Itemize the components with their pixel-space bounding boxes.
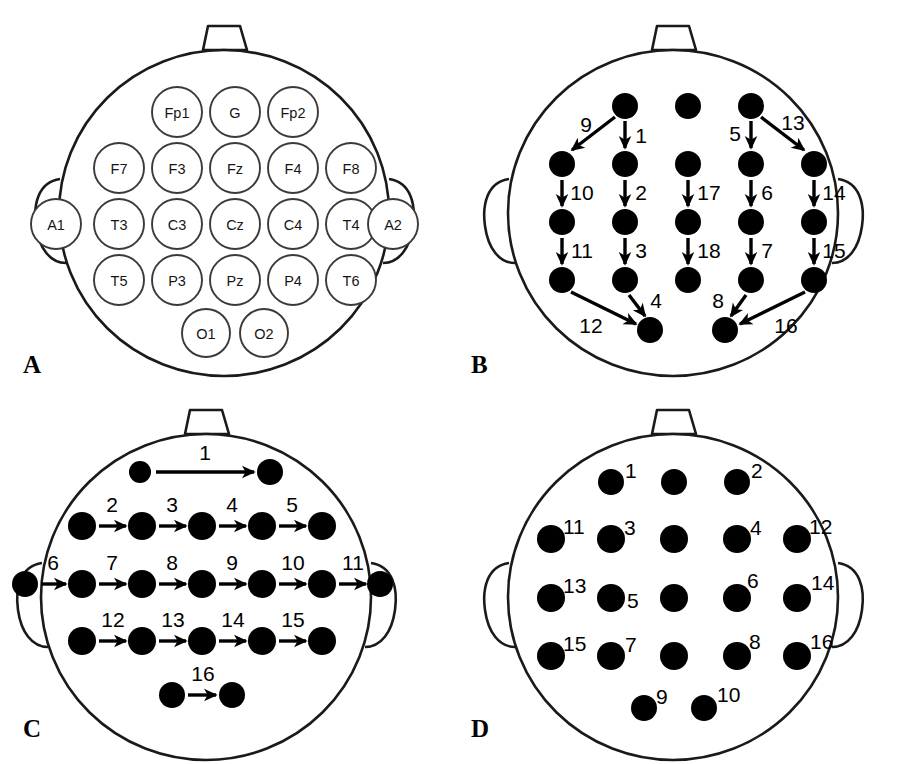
electrode-dot <box>128 627 156 655</box>
arrow-number: 11 <box>571 239 593 262</box>
arrow-number: 9 <box>226 551 238 574</box>
panel-d-drawing: 1 2 11 3 4 12 13 5 6 14 1 <box>449 382 898 764</box>
electrode-dot <box>637 317 663 343</box>
electrode-dot <box>549 209 575 235</box>
electrode-dot <box>68 570 96 598</box>
panel-letter-a: A <box>23 352 41 377</box>
nose-shape <box>203 26 247 50</box>
electrode-f4: F4 <box>268 143 318 193</box>
electrode-dot <box>801 209 827 235</box>
panel-b-longitudinal-bipolar: 9 1 5 13 10 2 17 6 14 <box>449 0 898 382</box>
arrow-number: 10 <box>570 181 593 204</box>
panel-c-transverse-bipolar: 1 2 3 4 5 6 7 8 9 10 11 12 <box>0 382 449 764</box>
arrow-number: 8 <box>166 551 178 574</box>
arrow-number: 13 <box>161 608 184 631</box>
arrow-number: 3 <box>635 239 647 262</box>
electrode-f3: F3 <box>152 143 202 193</box>
electrode-dot <box>660 642 688 670</box>
electrode-dot <box>712 317 738 343</box>
electrode-dot <box>631 695 657 721</box>
electrode-c3: C3 <box>152 199 202 249</box>
dot-number: 15 <box>563 632 586 655</box>
electrode-dot <box>675 93 701 119</box>
electrode-dot <box>219 682 245 708</box>
electrode-o2: O2 <box>240 309 288 357</box>
electrode-dot <box>783 584 811 612</box>
arrow-number: 6 <box>47 551 59 574</box>
arrow-number: 12 <box>579 314 602 337</box>
electrode-dot <box>248 627 276 655</box>
panel-letter-c: C <box>23 716 41 741</box>
electrode-label: F4 <box>285 161 302 177</box>
nose-shape <box>652 26 696 50</box>
electrode-dot <box>612 267 638 293</box>
panel-letter-d: D <box>471 716 489 741</box>
arrow-number: 15 <box>281 608 304 631</box>
electrode-dot <box>129 461 151 483</box>
panel-c-drawing: 1 2 3 4 5 6 7 8 9 10 11 12 <box>0 382 449 764</box>
electrode-dot <box>738 151 764 177</box>
electrode-dot <box>549 267 575 293</box>
arrow-number: 17 <box>697 181 720 204</box>
arrow-number: 4 <box>226 493 238 516</box>
electrode-label: A1 <box>47 217 65 233</box>
dot-number: 13 <box>563 574 586 597</box>
electrode-dot <box>675 151 701 177</box>
electrode-f7: F7 <box>94 143 144 193</box>
electrode-dot <box>537 525 565 553</box>
arrow-number: 5 <box>286 493 298 516</box>
dot-number: 7 <box>625 633 637 656</box>
electrode-p4: P4 <box>268 255 318 305</box>
dot-number: 16 <box>810 630 833 653</box>
electrode-label: O1 <box>196 326 215 342</box>
electrode-o1: O1 <box>182 309 230 357</box>
electrode-dot <box>723 525 751 553</box>
electrode-dot <box>68 627 96 655</box>
arrow-number: 13 <box>781 111 804 134</box>
arrow-number: 12 <box>101 608 124 631</box>
electrode-dot <box>308 570 336 598</box>
electrode-label: P3 <box>168 273 186 289</box>
electrode-dot <box>783 525 811 553</box>
arrow-number: 9 <box>580 113 592 136</box>
electrode-dot <box>597 525 625 553</box>
electrode-dot <box>188 570 216 598</box>
arrow-number: 14 <box>822 181 846 204</box>
electrode-label: C4 <box>284 217 303 233</box>
electrode-dot <box>612 151 638 177</box>
electrode-dot <box>248 570 276 598</box>
electrode-a1: A1 <box>31 199 81 249</box>
electrode-label: F7 <box>111 161 128 177</box>
electrode-dot <box>660 525 688 553</box>
arrow-number: 14 <box>221 608 245 631</box>
dot-number: 10 <box>717 683 740 706</box>
electrode-dot <box>801 151 827 177</box>
electrode-dot <box>612 93 638 119</box>
electrode-label: T5 <box>111 273 128 289</box>
electrode-dot <box>598 469 624 495</box>
nose-shape <box>652 410 696 434</box>
electrode-g: G <box>210 87 260 137</box>
electrode-f8: F8 <box>326 143 376 193</box>
electrode-label: Pz <box>227 273 244 289</box>
arrow-number: 7 <box>761 239 773 262</box>
electrode-label: G <box>229 105 240 121</box>
arrow-number: 16 <box>774 314 797 337</box>
electrode-dot <box>597 584 625 612</box>
electrode-dot <box>738 209 764 235</box>
electrode-dot <box>257 459 283 485</box>
electrode-label: C3 <box>168 217 187 233</box>
electrode-dot <box>597 642 625 670</box>
panel-b-drawing: 9 1 5 13 10 2 17 6 14 <box>449 0 898 382</box>
arrow-number: 6 <box>761 181 773 204</box>
panel-a-electrode-map: Fp1 G Fp2 F7 F3 Fz <box>0 0 449 382</box>
electrode-dot <box>801 267 827 293</box>
arrow-number: 2 <box>106 493 118 516</box>
electrode-dot <box>537 584 565 612</box>
electrode-dot <box>128 570 156 598</box>
electrode-dot <box>783 642 811 670</box>
electrode-label: Cz <box>226 217 244 233</box>
electrode-label: A2 <box>384 217 402 233</box>
dot-number: 9 <box>656 685 668 708</box>
dot-number: 5 <box>627 589 639 612</box>
